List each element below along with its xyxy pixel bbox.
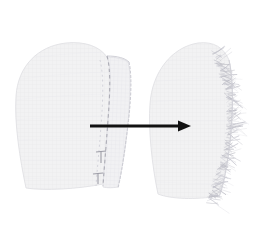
figure-container: j y <box>0 0 272 252</box>
left-panel <box>15 43 131 190</box>
figure-illustration <box>0 0 272 252</box>
